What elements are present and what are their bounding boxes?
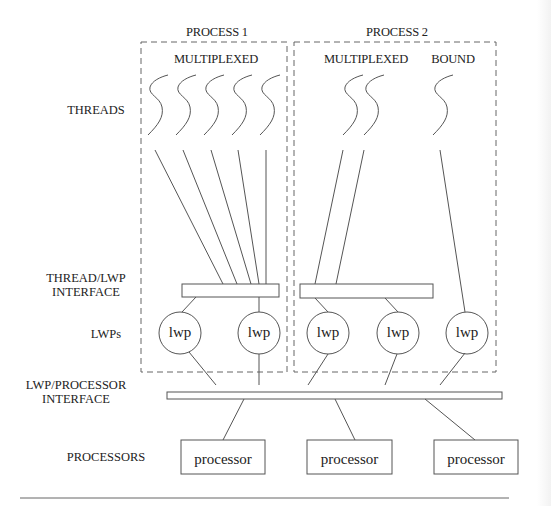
lwp-label: lwp [378, 323, 418, 341]
lwp-processor-interface [167, 392, 502, 399]
thread-icon [260, 75, 280, 135]
interface-lwp-connections [182, 297, 398, 312]
page-edge-shadow [537, 0, 551, 506]
lwp-processor-connections [189, 352, 465, 385]
row-label-thread-lwp-interface-1: THREAD/LWP [40, 271, 132, 286]
process-1-title: PROCESS 1 [182, 25, 252, 40]
row-label-thread-lwp-interface-2: INTERFACE [40, 285, 132, 300]
interface-processor-connections [223, 399, 475, 440]
row-label-lwp-processor-interface-1: LWP/PROCESSOR [20, 378, 132, 393]
thread-icon [148, 75, 168, 135]
group-label-multiplexed-p2: MULTIPLEXED [320, 52, 412, 67]
lwp-label: lwp [160, 323, 200, 341]
thread-icon [204, 75, 224, 135]
thread-icon [343, 75, 363, 135]
group-label-bound: BOUND [428, 52, 478, 67]
lwp-label: lwp [447, 323, 487, 341]
thread-icon [232, 75, 252, 135]
thread-lwp-interface-p2 [300, 284, 433, 298]
thread-icon [433, 75, 453, 135]
lwp-label: lwp [308, 323, 348, 341]
thread-lwp-interface-p1 [182, 284, 279, 297]
process-2-title: PROCESS 2 [362, 25, 432, 40]
processor-label: processor [307, 450, 392, 468]
row-label-threads: THREADS [60, 103, 132, 118]
processor-label: processor [434, 450, 518, 468]
thread-connections-p1 [155, 150, 266, 284]
processor-label: processor [181, 450, 265, 468]
thread-icon [176, 75, 196, 135]
row-label-lwp-processor-interface-2: INTERFACE [20, 392, 132, 407]
lwp-label: lwp [239, 323, 279, 341]
thread-icon [364, 75, 384, 135]
row-label-lwps: LWPs [80, 327, 132, 342]
diagram-canvas [0, 0, 551, 506]
group-label-multiplexed-p1: MULTIPLEXED [170, 52, 262, 67]
row-label-processors: PROCESSORS [60, 450, 152, 465]
